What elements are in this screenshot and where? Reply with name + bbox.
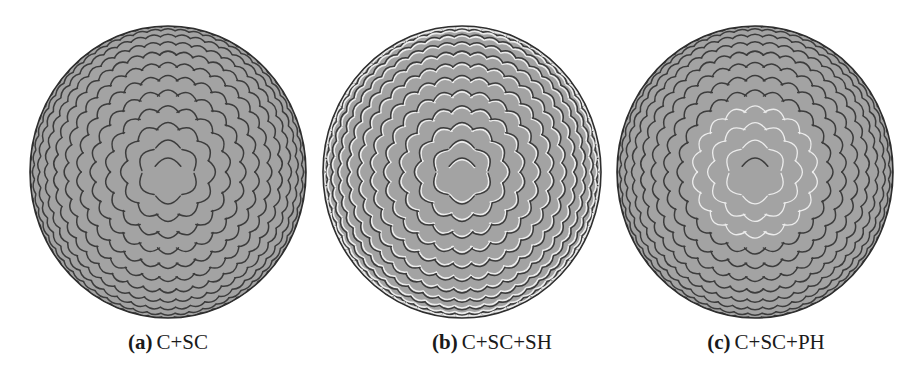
sphere-image-c [614,22,896,322]
figure: (a)C+SC (b)C+SC+SH (c)C+SC+PH [0,0,923,377]
caption-a: (a)C+SC [27,330,309,355]
caption-label-b: (b) [432,330,458,354]
caption-text-b: C+SC+SH [462,330,552,354]
caption-text-c: C+SC+PH [735,330,825,354]
caption-c: (c)C+SC+PH [636,330,896,355]
panel-c: (c)C+SC+PH [614,0,896,377]
panel-b: (b)C+SC+SH [321,0,603,377]
sphere-image-a [27,22,309,322]
panel-a: (a)C+SC [27,0,309,377]
caption-b: (b)C+SC+SH [381,330,603,355]
caption-label-c: (c) [707,330,730,354]
caption-label-a: (a) [128,330,153,354]
caption-text-a: C+SC [156,330,208,354]
sphere-image-b [321,22,603,322]
